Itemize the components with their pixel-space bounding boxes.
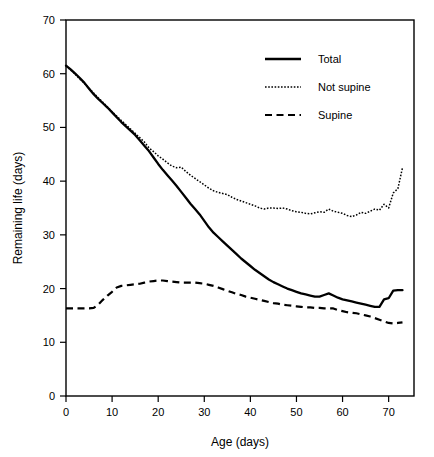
y-tick-label: 50 xyxy=(43,121,55,133)
x-axis-title: Age (days) xyxy=(211,435,269,449)
x-tick-label: 40 xyxy=(244,406,256,418)
x-tick-label: 30 xyxy=(198,406,210,418)
x-tick-label: 60 xyxy=(336,406,348,418)
x-tick-label: 70 xyxy=(383,406,395,418)
y-axis-title: Remaining life (days) xyxy=(11,152,25,265)
legend-label-total: Total xyxy=(318,53,341,65)
chart-figure: 010203040506070 010203040506070 Age (day… xyxy=(0,0,434,457)
x-axis-ticks xyxy=(66,396,389,402)
x-axis-tick-labels: 010203040506070 xyxy=(63,406,395,418)
y-tick-label: 70 xyxy=(43,14,55,26)
x-tick-label: 10 xyxy=(106,406,118,418)
x-tick-label: 50 xyxy=(290,406,302,418)
y-tick-label: 20 xyxy=(43,283,55,295)
series-line-total xyxy=(66,66,402,307)
legend-label-not-supine: Not supine xyxy=(318,81,371,93)
x-tick-label: 20 xyxy=(152,406,164,418)
plot-frame xyxy=(66,20,414,396)
y-tick-label: 60 xyxy=(43,68,55,80)
y-axis-tick-labels: 010203040506070 xyxy=(43,14,55,402)
y-tick-label: 40 xyxy=(43,175,55,187)
line-chart: 010203040506070 010203040506070 Age (day… xyxy=(0,0,434,457)
y-tick-label: 10 xyxy=(43,336,55,348)
legend-label-supine: Supine xyxy=(318,109,352,121)
x-tick-label: 0 xyxy=(63,406,69,418)
y-tick-label: 0 xyxy=(49,390,55,402)
chart-legend: Total Not supine Supine xyxy=(265,53,371,121)
y-tick-label: 30 xyxy=(43,229,55,241)
y-axis-ticks xyxy=(60,20,66,396)
